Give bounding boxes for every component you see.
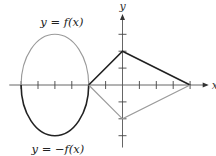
label-y-equals-neg-f-of-x: y = −f(x) xyxy=(31,142,85,156)
x-axis-arrow-icon xyxy=(203,83,209,88)
x-axis-label: x xyxy=(212,79,216,92)
y-axis-label: y xyxy=(118,0,126,13)
function-reflection-chart: x y y = f(x) y = −f(x) xyxy=(0,0,216,156)
curve-f xyxy=(21,34,89,85)
polyline-neg-f xyxy=(89,85,190,119)
curve-neg-f xyxy=(21,85,89,136)
y-axis-arrow-icon xyxy=(120,14,125,20)
polyline-f xyxy=(89,51,190,85)
label-y-equals-f-of-x: y = f(x) xyxy=(39,15,83,29)
